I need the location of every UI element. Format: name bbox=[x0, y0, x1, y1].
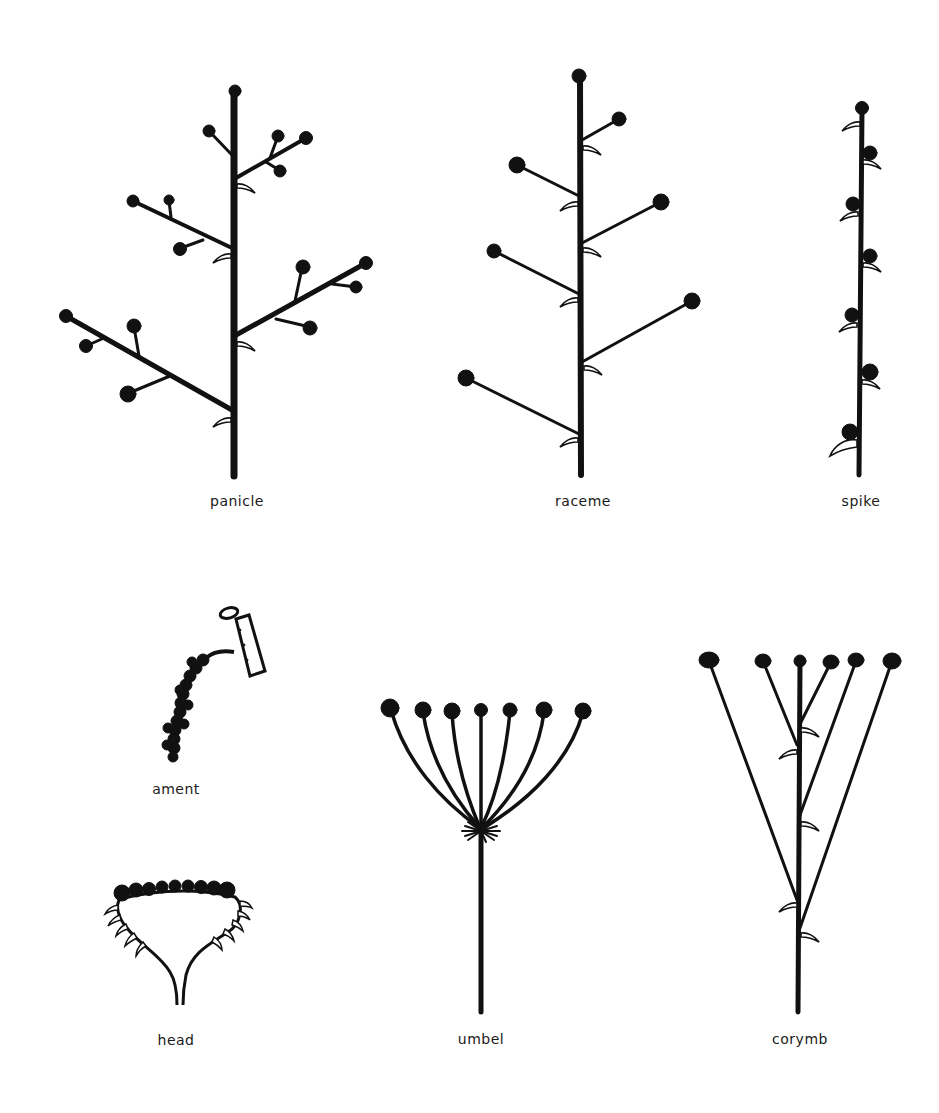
label-umbel: umbel bbox=[458, 1031, 504, 1047]
label-raceme: raceme bbox=[555, 493, 611, 509]
ament-drawing bbox=[162, 606, 265, 762]
inflorescence-diagram bbox=[0, 0, 939, 1113]
label-spike: spike bbox=[842, 493, 881, 509]
spike-drawing bbox=[830, 102, 881, 476]
label-corymb: corymb bbox=[772, 1031, 828, 1047]
corymb-drawing bbox=[699, 652, 901, 1012]
label-head: head bbox=[158, 1032, 195, 1048]
head-drawing bbox=[105, 880, 252, 1005]
label-panicle: panicle bbox=[210, 493, 264, 509]
raceme-drawing bbox=[458, 69, 700, 475]
panicle-drawing bbox=[60, 85, 373, 476]
umbel-drawing bbox=[381, 699, 591, 1012]
label-ament: ament bbox=[152, 781, 200, 797]
